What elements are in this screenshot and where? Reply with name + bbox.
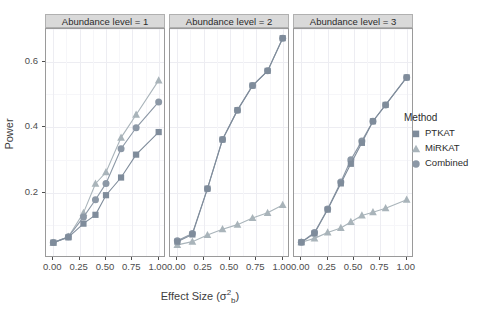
- data-point-combined: [155, 98, 162, 105]
- data-point-ptkat: [311, 230, 317, 236]
- legend-title: Method: [404, 112, 437, 123]
- x-tick-label: 0.75: [366, 261, 392, 272]
- x-tick-label: 0.25: [66, 261, 92, 272]
- legend-label: PTKAT: [425, 127, 455, 138]
- x-tick-mark: [406, 257, 407, 260]
- x-tick-mark: [105, 257, 106, 260]
- data-point-combined: [118, 145, 125, 152]
- data-point-combined: [92, 196, 99, 203]
- x-tick-mark: [229, 257, 230, 260]
- legend-marker-square-icon: [410, 128, 422, 140]
- x-tick-label: 0.00: [163, 261, 189, 272]
- x-tick-mark: [379, 257, 380, 260]
- facet-strip-label: Abundance level = 2: [169, 14, 289, 28]
- x-tick-mark: [282, 257, 283, 260]
- data-point-ptkat: [298, 239, 304, 245]
- legend-marker-circle-icon: [410, 158, 422, 170]
- x-tick-label: 0.25: [190, 261, 216, 272]
- data-point-ptkat: [174, 239, 180, 245]
- data-point-ptkat: [404, 74, 410, 80]
- x-tick-label: 1.00: [393, 261, 419, 272]
- plot-area: [169, 28, 289, 257]
- data-point-ptkat: [359, 140, 365, 146]
- data-point-mirkat: [155, 76, 163, 83]
- data-point-ptkat: [338, 180, 344, 186]
- data-point-ptkat: [50, 240, 56, 246]
- facet-panel: Abundance level = 1: [45, 14, 165, 257]
- data-point-mirkat: [264, 209, 272, 216]
- data-point-ptkat: [325, 206, 331, 212]
- x-tick-mark: [203, 257, 204, 260]
- x-tick-label: 0.50: [216, 261, 242, 272]
- series-layer: [170, 29, 290, 258]
- x-tick-label: 0.75: [118, 261, 144, 272]
- data-point-ptkat: [265, 68, 271, 74]
- y-tick-label: 0.2: [2, 186, 38, 197]
- data-point-ptkat: [348, 161, 354, 167]
- data-point-ptkat: [189, 231, 195, 237]
- data-point-combined: [133, 124, 140, 131]
- data-point-mirkat: [279, 201, 287, 208]
- x-tick-label: 0.50: [92, 261, 118, 272]
- data-point-combined: [80, 214, 87, 221]
- x-tick-mark: [300, 257, 301, 260]
- x-tick-mark: [176, 257, 177, 260]
- x-tick-mark: [327, 257, 328, 260]
- x-tick-mark: [255, 257, 256, 260]
- data-point-mirkat: [403, 196, 411, 203]
- x-tick-label: 0.50: [340, 261, 366, 272]
- x-tick-label: 0.25: [314, 261, 340, 272]
- data-point-ptkat: [65, 234, 71, 240]
- x-tick-mark: [158, 257, 159, 260]
- data-point-mirkat: [132, 111, 140, 118]
- x-tick-label: 0.75: [242, 261, 268, 272]
- x-axis-title: Effect Size (σ2b): [0, 288, 400, 305]
- data-point-ptkat: [133, 152, 139, 158]
- facet-strip-label: Abundance level = 3: [293, 14, 413, 28]
- y-tick-label: 0.6: [2, 55, 38, 66]
- data-point-ptkat: [92, 212, 98, 218]
- plot-area: [293, 28, 413, 257]
- data-point-mirkat: [102, 168, 110, 175]
- facet-panel: Abundance level = 3: [293, 14, 413, 257]
- x-tick-label: 0.00: [287, 261, 313, 272]
- legend-label: Combined: [425, 157, 468, 168]
- series-line-mirkat: [53, 80, 158, 242]
- legend-marker-triangle-icon: [410, 143, 422, 155]
- facet-strip-label: Abundance level = 1: [45, 14, 165, 28]
- data-point-ptkat: [118, 174, 124, 180]
- x-tick-mark: [131, 257, 132, 260]
- data-point-mirkat: [337, 224, 345, 231]
- x-tick-mark: [79, 257, 80, 260]
- legend-label: MiRKAT: [425, 142, 460, 153]
- data-point-ptkat: [219, 136, 225, 142]
- data-point-mirkat: [347, 218, 355, 225]
- data-point-ptkat: [80, 221, 86, 227]
- chart-root: Power Effect Size (σ2b) 0.20.40.6 Abunda…: [0, 0, 486, 315]
- data-point-ptkat: [204, 186, 210, 192]
- data-point-combined: [103, 180, 110, 187]
- y-axis-title: Power: [3, 104, 15, 164]
- series-layer: [46, 29, 166, 258]
- data-point-ptkat: [280, 35, 286, 41]
- series-line-ptkat: [53, 132, 158, 243]
- x-tick-label: 0.00: [39, 261, 65, 272]
- plot-area: [45, 28, 165, 257]
- data-point-ptkat: [249, 82, 255, 88]
- data-point-ptkat: [156, 129, 162, 135]
- data-point-ptkat: [383, 102, 389, 108]
- y-tick-label: 0.4: [2, 120, 38, 131]
- data-point-ptkat: [370, 118, 376, 124]
- x-tick-mark: [353, 257, 354, 260]
- data-point-ptkat: [103, 192, 109, 198]
- facet-panel: Abundance level = 2: [169, 14, 289, 257]
- x-tick-mark: [52, 257, 53, 260]
- data-point-ptkat: [234, 107, 240, 113]
- series-layer: [294, 29, 414, 258]
